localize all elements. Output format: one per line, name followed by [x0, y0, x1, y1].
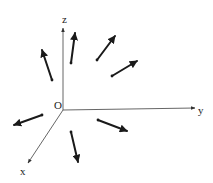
z-axis-label: z [62, 13, 67, 25]
vector-tail-dot [111, 75, 114, 78]
axes [28, 28, 195, 163]
labels: O zyx [20, 13, 204, 177]
vector-arrow-icon [71, 33, 75, 63]
vector-arrow-icon [71, 132, 78, 162]
x-axis-label: x [20, 165, 26, 177]
vector-arrow-icon [97, 36, 115, 60]
vector-tail-dot [41, 114, 44, 117]
vector-arrow-icon [98, 120, 127, 131]
vector-arrow-icon [14, 115, 42, 125]
y-axis [63, 108, 195, 110]
vector-field-diagram: O zyx [0, 0, 213, 183]
y-axis-label: y [198, 104, 204, 116]
vector-arrow-icon [112, 61, 137, 76]
vector-tail-dot [51, 79, 54, 82]
vector-arrow-icon [42, 50, 52, 80]
origin-label: O [54, 99, 62, 111]
vector-tail-dot [70, 62, 73, 65]
vector-tail-dot [96, 59, 99, 62]
vectors [14, 33, 137, 162]
vector-tail-dot [97, 119, 100, 122]
vector-tail-dot [70, 131, 73, 134]
